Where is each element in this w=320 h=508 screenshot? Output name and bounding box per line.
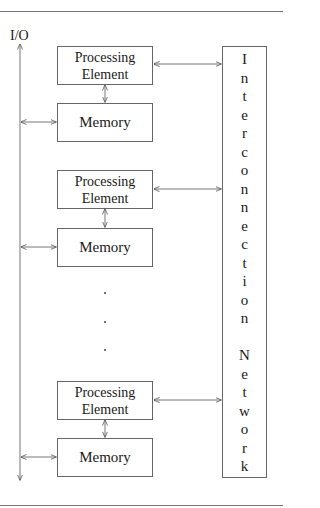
network-letter: o bbox=[223, 292, 266, 308]
pe-label-line2: Element bbox=[75, 190, 136, 207]
memory-1: Memory bbox=[57, 103, 153, 142]
network-letter: I bbox=[223, 51, 266, 67]
network-letter: t bbox=[223, 88, 266, 104]
network-letter: w bbox=[223, 403, 266, 419]
network-letter: e bbox=[223, 218, 266, 234]
ellipsis-dot-1 bbox=[104, 292, 106, 294]
memory-2: Memory bbox=[57, 228, 153, 267]
network-letter: t bbox=[223, 255, 266, 271]
processing-element-2: ProcessingElement bbox=[57, 170, 153, 209]
network-letter: e bbox=[223, 366, 266, 382]
pe-label-line1: Processing bbox=[75, 49, 136, 66]
network-letter: r bbox=[223, 440, 266, 456]
memory-label: Memory bbox=[79, 449, 131, 466]
network-letter: k bbox=[223, 458, 266, 474]
network-letter: n bbox=[223, 70, 266, 86]
ellipsis-dot-2 bbox=[104, 321, 106, 323]
network-letter: r bbox=[223, 125, 266, 141]
pe-label-line2: Element bbox=[75, 401, 136, 418]
ellipsis-dot-3 bbox=[104, 349, 106, 351]
processing-element-3: ProcessingElement bbox=[57, 381, 153, 420]
processing-element-1: ProcessingElement bbox=[57, 46, 153, 85]
network-letter: n bbox=[223, 199, 266, 215]
memory-3: Memory bbox=[57, 438, 153, 477]
network-letter: t bbox=[223, 384, 266, 400]
pe-label-line2: Element bbox=[75, 66, 136, 83]
network-letter: c bbox=[223, 236, 266, 252]
network-letter: o bbox=[223, 421, 266, 437]
network-letter: n bbox=[223, 181, 266, 197]
memory-label: Memory bbox=[79, 114, 131, 131]
network-letter: i bbox=[223, 273, 266, 289]
interconnection-network: I n t e r c o n n e c t i o n N e t w o … bbox=[222, 46, 267, 478]
memory-label: Memory bbox=[79, 239, 131, 256]
network-letter: o bbox=[223, 162, 266, 178]
pe-label-line1: Processing bbox=[75, 384, 136, 401]
pe-label-line1: Processing bbox=[75, 173, 136, 190]
network-letter: n bbox=[223, 310, 266, 326]
network-letter: c bbox=[223, 144, 266, 160]
network-letter: N bbox=[223, 347, 266, 363]
network-letter: e bbox=[223, 107, 266, 123]
